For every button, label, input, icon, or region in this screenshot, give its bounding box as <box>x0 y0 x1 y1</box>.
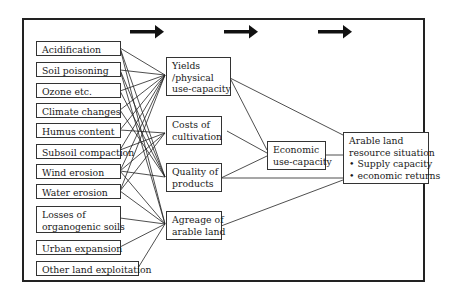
node-label: Economic <box>273 144 325 156</box>
node-agreage: Agreage of arable land <box>166 211 222 240</box>
factor-label: organogenic soils <box>42 221 120 233</box>
factor-label: Subsoil compaction <box>42 147 134 158</box>
node-label: use-capacity <box>273 156 325 168</box>
factor-acidification: Acidification <box>36 41 121 56</box>
factor-label: Other land exploitation <box>42 264 151 275</box>
bullet-item: • economic returns <box>349 170 428 182</box>
factor-soil-poisoning: Soil poisoning <box>36 62 121 77</box>
factor-subsoil-compaction: Subsoil compaction <box>36 144 121 159</box>
node-label: use-capacity <box>172 83 230 95</box>
factor-losses-organogenic: Losses of organogenic soils <box>36 206 121 233</box>
node-label: cultivation <box>172 131 221 143</box>
node-label: Yields <box>172 60 230 72</box>
factor-label: Losses of <box>42 209 120 221</box>
node-label: /physical <box>172 72 230 84</box>
factor-label: Soil poisoning <box>42 65 109 76</box>
factor-label: Ozone etc. <box>42 86 92 97</box>
bullet-item: • Supply capacity <box>349 158 428 170</box>
node-economic-use-capacity: Economic use-capacity <box>267 141 326 170</box>
factor-urban-expansion: Urban expansion <box>36 240 121 255</box>
factor-label: Acidification <box>42 44 101 55</box>
factor-label: Wind erosion <box>42 167 104 178</box>
factor-water-erosion: Water erosion <box>36 184 121 199</box>
node-arable-land-situation: Arable land resource situation • Supply … <box>343 132 429 184</box>
factor-label: Water erosion <box>42 187 108 198</box>
factor-climate-changes: Climate changes <box>36 103 121 118</box>
node-label: Costs of <box>172 119 221 131</box>
node-label: Arable land <box>349 135 428 147</box>
node-quality: Quality of products <box>166 163 222 192</box>
factor-wind-erosion: Wind erosion <box>36 164 121 179</box>
factor-label: Climate changes <box>42 106 121 117</box>
flow-arrow-1 <box>130 30 157 34</box>
factor-humus-content: Humus content <box>36 123 121 138</box>
factor-other-land: Other land exploitation <box>36 261 139 276</box>
factor-label: Urban expansion <box>42 243 122 254</box>
factor-ozone: Ozone etc. <box>36 83 121 98</box>
node-label: arable land <box>172 226 221 238</box>
factor-label: Humus content <box>42 126 114 137</box>
node-label: Quality of <box>172 166 221 178</box>
node-label: resource situation <box>349 147 428 159</box>
node-label: Agreage of <box>172 214 221 226</box>
node-costs: Costs of cultivation <box>166 116 222 145</box>
node-label: products <box>172 178 221 190</box>
node-yields: Yields /physical use-capacity <box>166 57 231 96</box>
